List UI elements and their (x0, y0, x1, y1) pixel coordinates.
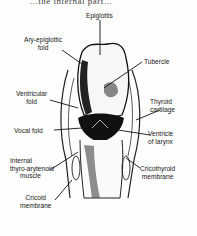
label-thyroid-cartilage: Thyroid cartilage (150, 98, 175, 113)
label-vocal-fold: Vocal fold (14, 127, 43, 135)
label-internal-thyro-arytenoid-muscle: Internal thyro-arytenoid muscle (10, 157, 54, 180)
label-cricothyroid-membrane: Cricothyroid membrane (140, 165, 175, 180)
label-ventricle-of-larynx: Ventricle of larynx (148, 130, 173, 145)
label-tubercle: Tubercle (144, 58, 169, 66)
label-epiglottis: Epiglottis (86, 12, 113, 20)
label-ventricular-fold: Ventricular fold (16, 90, 47, 105)
label-cricoid-membrane: Cricoid membrane (20, 194, 52, 209)
label-ary-epiglottic-fold: Ary-epiglottic fold (24, 36, 62, 51)
